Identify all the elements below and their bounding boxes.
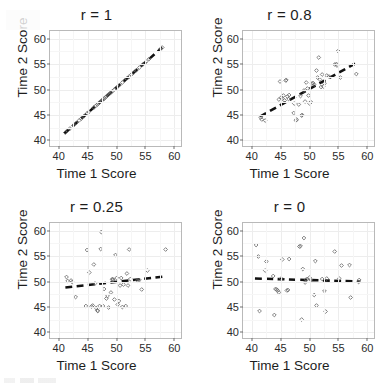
gridline-vertical [338, 31, 339, 146]
data-layer [50, 31, 181, 146]
y-axis-tick-mark [240, 89, 243, 90]
data-point [92, 263, 96, 267]
x-axis-tick-mark [174, 338, 175, 341]
gridline-vertical [145, 223, 146, 338]
gridline-vertical [117, 31, 118, 146]
data-point [354, 72, 358, 76]
gridline-vertical [310, 31, 311, 146]
x-axis-tick-mark [309, 146, 310, 149]
gridline-horizontal-minor [243, 51, 374, 52]
gridline-vertical [145, 31, 146, 146]
y-axis-tick-mark [240, 332, 243, 333]
gridline-horizontal [50, 282, 181, 283]
data-point [304, 81, 308, 85]
gridline-vertical [338, 223, 339, 338]
y-axis-tick-mark [47, 38, 50, 39]
x-axis-tick-mark [280, 338, 281, 341]
data-point [272, 313, 276, 317]
correlation-scatterplot-figure: r = 1 Time 2 Score Time 1 Score 40455055… [0, 0, 386, 385]
gridline-vertical [117, 223, 118, 338]
gridline-horizontal-minor [243, 102, 374, 103]
x-axis-tick-mark [58, 338, 59, 341]
gridline-vertical-minor [295, 223, 296, 338]
gridline-vertical [59, 31, 60, 146]
gridline-vertical [252, 31, 253, 146]
y-axis-tick-mark [47, 281, 50, 282]
gridline-vertical-minor [295, 31, 296, 146]
gridline-horizontal-minor [50, 294, 181, 295]
gridline-horizontal-minor [243, 128, 374, 129]
data-point [65, 275, 69, 279]
data-layer [50, 223, 181, 338]
data-point [258, 309, 262, 313]
data-point [119, 276, 123, 280]
gridline-horizontal [243, 39, 374, 40]
scatter-panel-r0: r = 0 Time 2 Score Time 1 Score 40455055… [193, 192, 386, 385]
data-point [315, 69, 319, 73]
gridline-horizontal [243, 256, 374, 257]
y-axis-tick-mark [240, 140, 243, 141]
gridline-horizontal [243, 115, 374, 116]
gridline-horizontal-minor [50, 77, 181, 78]
plot-area: 40455055604045505560 [49, 222, 182, 339]
gridline-horizontal [50, 115, 181, 116]
x-axis-tick-mark [367, 338, 368, 341]
plot-area: 40455055604045505560 [242, 30, 375, 147]
x-axis-tick-mark [251, 146, 252, 149]
x-axis-tick-mark [145, 146, 146, 149]
data-point [140, 288, 144, 292]
x-axis-label: Time 1 Score [0, 166, 193, 181]
y-axis-label: Time 2 Score [15, 8, 30, 108]
y-axis-tick-mark [240, 114, 243, 115]
x-axis-label: Time 1 Score [0, 358, 193, 373]
gridline-vertical-minor [324, 223, 325, 338]
scatter-panel-r025: r = 0.25 Time 2 Score Time 1 Score 40455… [0, 192, 193, 385]
x-axis-label: Time 1 Score [193, 358, 386, 373]
gridline-vertical [310, 223, 311, 338]
y-axis-tick-mark [47, 114, 50, 115]
gridline-vertical [174, 223, 175, 338]
data-point [125, 272, 129, 276]
gridline-vertical [174, 31, 175, 146]
x-axis-tick-mark [174, 146, 175, 149]
data-point [317, 56, 321, 60]
plot-area: 40455055604045505560 [242, 222, 375, 339]
data-point [74, 295, 78, 299]
x-axis-tick-mark [87, 146, 88, 149]
data-point [126, 284, 130, 288]
gridline-horizontal [50, 307, 181, 308]
gridline-horizontal-minor [50, 128, 181, 129]
gridline-horizontal [50, 231, 181, 232]
gridline-horizontal [50, 64, 181, 65]
gridline-horizontal-minor [243, 243, 374, 244]
y-axis-tick-mark [47, 64, 50, 65]
gridline-vertical-minor [266, 223, 267, 338]
y-axis-tick-mark [47, 332, 50, 333]
gridline-horizontal-minor [50, 243, 181, 244]
data-point [287, 93, 291, 97]
gridline-horizontal-minor [243, 269, 374, 270]
y-axis-tick-mark [47, 230, 50, 231]
scatter-panel-r08: r = 0.8 Time 2 Score Time 1 Score 404550… [193, 0, 386, 192]
gridline-horizontal [50, 332, 181, 333]
y-axis-tick-mark [240, 256, 243, 257]
gridline-vertical [281, 223, 282, 338]
gridline-vertical [367, 31, 368, 146]
gridline-vertical-minor [160, 31, 161, 146]
data-point [333, 250, 337, 254]
gridline-horizontal [243, 64, 374, 65]
x-axis-tick-mark [145, 338, 146, 341]
gridline-horizontal-minor [50, 51, 181, 52]
gridline-vertical-minor [102, 31, 103, 146]
y-axis-label: Time 2 Score [210, 200, 225, 300]
data-layer [243, 31, 374, 146]
gridline-vertical-minor [324, 31, 325, 146]
x-axis-tick-mark [251, 338, 252, 341]
gridline-vertical-minor [353, 31, 354, 146]
gridline-horizontal [243, 231, 374, 232]
gridline-horizontal [243, 307, 374, 308]
gridline-vertical-minor [160, 223, 161, 338]
gridline-horizontal-minor [50, 269, 181, 270]
gridline-vertical [88, 31, 89, 146]
y-axis-tick-mark [47, 256, 50, 257]
